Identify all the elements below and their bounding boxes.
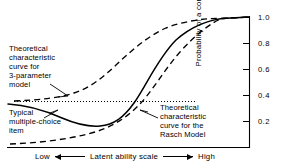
annotation-three-parameter-model: Theoretical characteristic curve for 3-p… [9, 44, 87, 89]
y-tick-label-0.2: 0.2 [258, 117, 270, 126]
y-tick-label-1.0: 1.0 [258, 13, 270, 22]
right-arrow-icon [163, 153, 193, 160]
x-axis-title: Latent ability scale [90, 152, 158, 161]
annotation-rasch-model: Theoretical characteristic curve for the… [160, 103, 244, 139]
item-characteristic-curve-figure: 1.0 0.8 0.6 0.4 0.2 Theoretical characte… [0, 0, 292, 167]
annotation-typical-multiple-choice-item: Typical multiple-choice item [9, 108, 95, 135]
x-axis-high-label: High [198, 152, 215, 161]
y-tick-label-0.4: 0.4 [258, 91, 270, 100]
x-axis-low-label: Low [35, 152, 50, 161]
y-tick-label-0.6: 0.6 [258, 65, 270, 74]
y-axis-title: Probability of a correct response [194, 0, 208, 88]
leader-line-rasch-model [140, 110, 158, 118]
x-axis-caption: LowLatent ability scaleHigh [0, 152, 250, 161]
left-arrow-icon [55, 153, 85, 160]
y-tick-label-0.8: 0.8 [258, 39, 270, 48]
